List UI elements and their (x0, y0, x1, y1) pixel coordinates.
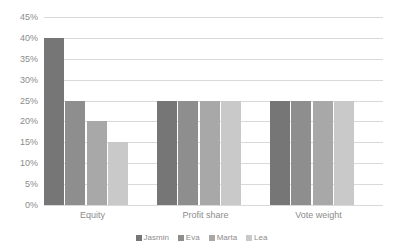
bar-group (44, 17, 157, 205)
x-category-text: Profit share (183, 208, 229, 222)
bar-slot (108, 17, 128, 205)
legend-label: Jasmin (144, 233, 169, 243)
legend-label: Eva (186, 233, 200, 243)
bar-group (157, 17, 270, 205)
y-tick-label: 15% (20, 137, 38, 147)
bar-group (270, 17, 383, 205)
bar-slot (334, 17, 354, 205)
x-category-label: Equity (44, 208, 157, 224)
bar-slot (200, 17, 220, 205)
y-tick-label: 0% (25, 200, 38, 210)
bar-slot (291, 17, 311, 205)
bar-slot (157, 17, 177, 205)
y-tick-label: 5% (25, 179, 38, 189)
bar-slot (270, 17, 290, 205)
bar-slot (87, 17, 107, 205)
gridline (44, 205, 383, 206)
bar-eva-vote-weight[interactable] (291, 101, 311, 205)
y-tick-label: 30% (20, 75, 38, 85)
x-category-label: Vote weight (270, 208, 383, 224)
x-category-text: Vote weight (295, 208, 342, 222)
legend-item-eva[interactable]: Eva (178, 233, 200, 243)
bar-jasmin-profit-share[interactable] (157, 101, 177, 205)
x-category-text: Equity (80, 208, 105, 222)
legend-label: Lea (254, 233, 267, 243)
legend-swatch-icon (209, 235, 215, 241)
y-tick-label: 10% (20, 158, 38, 168)
bar-eva-equity[interactable] (65, 101, 85, 205)
bar-slot (221, 17, 241, 205)
bar-jasmin-vote-weight[interactable] (270, 101, 290, 205)
bar-marta-profit-share[interactable] (200, 101, 220, 205)
y-tick-label: 45% (20, 12, 38, 22)
bar-marta-vote-weight[interactable] (313, 101, 333, 205)
x-category-label: Profit share (157, 208, 270, 224)
bar-eva-profit-share[interactable] (178, 101, 198, 205)
bar-slot (65, 17, 85, 205)
bar-slot (178, 17, 198, 205)
y-tick-label: 20% (20, 116, 38, 126)
x-axis: EquityProfit shareVote weight (44, 208, 383, 224)
y-axis: 45%40%35%30%25%20%15%10%5%0% (0, 17, 40, 205)
y-tick-label: 40% (20, 33, 38, 43)
y-tick-label: 35% (20, 54, 38, 64)
bar-lea-vote-weight[interactable] (334, 101, 354, 205)
legend-item-lea[interactable]: Lea (246, 233, 267, 243)
legend-swatch-icon (246, 235, 252, 241)
chart-title (0, 0, 403, 3)
bar-slot (44, 17, 64, 205)
legend-swatch-icon (136, 235, 142, 241)
y-tick-label: 25% (20, 96, 38, 106)
legend-item-marta[interactable]: Marta (209, 233, 237, 243)
bar-marta-equity[interactable] (87, 121, 107, 205)
bar-jasmin-equity[interactable] (44, 38, 64, 205)
legend-item-jasmin[interactable]: Jasmin (136, 233, 169, 243)
chart-legend: JasminEvaMartaLea (0, 231, 403, 245)
bar-chart: 45%40%35%30%25%20%15%10%5%0% EquityProfi… (0, 0, 403, 248)
bar-groups (44, 17, 383, 205)
legend-label: Marta (217, 233, 237, 243)
legend-swatch-icon (178, 235, 184, 241)
bar-lea-equity[interactable] (108, 142, 128, 205)
bar-slot (313, 17, 333, 205)
bar-lea-profit-share[interactable] (221, 101, 241, 205)
